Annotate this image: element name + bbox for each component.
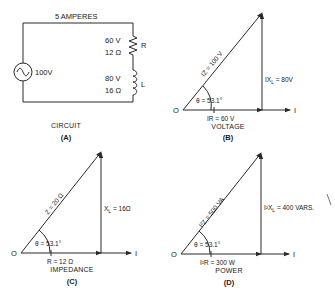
inductor-voltage: 80 V	[105, 74, 120, 83]
voltage-letter: (B)	[223, 133, 234, 142]
hypotenuse-label: I²Z = 500 VA	[197, 195, 225, 228]
resistor-value: 12 Ω	[105, 48, 121, 57]
angle-label: θ = 53.1°	[35, 240, 62, 247]
iz-vector	[183, 13, 262, 110]
origin-label: O	[11, 249, 17, 258]
circuit-panel: 5 AMPERES 100V 60 V 12 Ω R 80 V 16 Ω L C…	[14, 12, 147, 142]
source-label: 100V	[35, 68, 53, 77]
sine-wave-icon	[17, 68, 29, 76]
resistor-symbol: R	[141, 41, 147, 50]
power-letter: (D)	[224, 278, 235, 287]
current-label: 5 AMPERES	[55, 12, 98, 21]
stray-mark	[327, 194, 331, 205]
base-label: R = 12 Ω	[47, 258, 73, 265]
axis-label: I	[135, 249, 137, 258]
vertical-label: I²XL = 400 VARS.	[264, 204, 314, 213]
axis-label: I	[294, 106, 296, 115]
voltage-caption: VOLTAGE	[211, 123, 245, 130]
base-label: IR = 60 V	[207, 115, 235, 122]
inductor-symbol: L	[141, 80, 145, 89]
circuit-caption: CIRCUIT	[51, 122, 81, 129]
angle-label: θ = 53.1°	[196, 97, 223, 104]
voltage-panel: O I IZ = 100 V θ = 53.1° IR = 60 V IXL =…	[173, 13, 296, 142]
figure: 5 AMPERES 100V 60 V 12 Ω R 80 V 16 Ω L C…	[0, 0, 335, 302]
angle-label: θ = 53.1°	[194, 241, 221, 248]
inductor-icon	[133, 70, 137, 95]
circuit-letter: (A)	[61, 133, 72, 142]
inductor-value: 16 Ω	[105, 86, 121, 95]
resistor-voltage: 60 V	[105, 36, 120, 45]
z-vector	[21, 152, 101, 253]
power-caption: POWER	[215, 267, 242, 274]
base-label: I²R = 300 W	[200, 259, 236, 266]
impedance-panel: O I Z = 20 Ω θ = 53.1° R = 12 Ω XL = 16Ω…	[11, 152, 137, 286]
impedance-caption: IMPEDANCE	[50, 266, 94, 273]
axis-label: I	[293, 250, 295, 259]
origin-label: O	[171, 250, 177, 259]
origin-label: O	[173, 106, 179, 115]
vertical-label: XL = 16Ω	[104, 205, 131, 214]
impedance-letter: (C)	[67, 277, 78, 286]
vertical-label: IXL = 80V	[265, 76, 294, 85]
power-panel: O I I²Z = 500 VA θ = 53.1° I²R = 300 W I…	[171, 153, 314, 287]
resistor-icon	[129, 36, 137, 55]
